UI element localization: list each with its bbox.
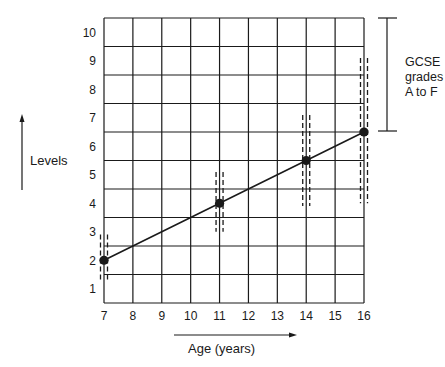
- y-tick-label: 4: [89, 197, 96, 211]
- y-tick-label: 3: [89, 225, 96, 239]
- data-point-marker: [215, 199, 224, 208]
- y-tick-label: 2: [89, 254, 96, 268]
- y-tick-label: 5: [89, 168, 96, 182]
- series-line: [104, 132, 364, 260]
- y-tick-label: 9: [89, 54, 96, 68]
- x-tick-label: 7: [101, 309, 108, 323]
- grid: [104, 18, 364, 303]
- x-tick-label: 13: [271, 309, 285, 323]
- x-tick-label: 14: [300, 309, 314, 323]
- gcse-label-line2: grades: [405, 70, 443, 84]
- x-axis-label: Age (years): [188, 341, 255, 356]
- gcse-label-line1: GCSE: [405, 55, 440, 69]
- y-axis-arrowhead-icon: [20, 114, 25, 122]
- x-axis-label-group: Age (years): [174, 333, 297, 357]
- x-tick-labels: 78910111213141516: [101, 309, 371, 323]
- y-tick-labels: 12345678910: [83, 26, 97, 297]
- data-point-marker: [359, 127, 368, 136]
- data-series: [99, 127, 368, 264]
- gcse-bracket: GCSE grades A to F: [378, 18, 443, 131]
- data-point-marker: [302, 156, 311, 165]
- y-tick-label: 1: [89, 282, 96, 296]
- y-tick-label: 7: [89, 111, 96, 125]
- x-axis-arrowhead-icon: [289, 333, 297, 338]
- x-tick-label: 8: [130, 309, 137, 323]
- y-axis-label-group: Levels: [20, 114, 69, 190]
- y-tick-label: 10: [83, 26, 97, 40]
- x-tick-label: 12: [242, 309, 256, 323]
- levels-chart: 12345678910 78910111213141516 Levels Age…: [0, 0, 445, 367]
- gcse-label-line3: A to F: [405, 85, 438, 99]
- x-tick-label: 16: [357, 309, 371, 323]
- x-tick-label: 10: [184, 309, 198, 323]
- data-point-marker: [99, 256, 108, 265]
- y-axis-label: Levels: [30, 153, 68, 168]
- range-bars: [101, 58, 368, 282]
- y-tick-label: 8: [89, 83, 96, 97]
- y-tick-label: 6: [89, 140, 96, 154]
- x-tick-label: 9: [158, 309, 165, 323]
- x-tick-label: 11: [213, 309, 226, 323]
- x-tick-label: 15: [328, 309, 342, 323]
